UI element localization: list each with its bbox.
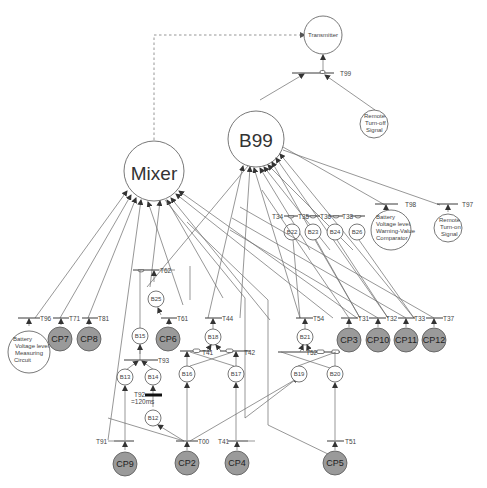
place-remote-turn-on[interactable]: Remote Turn-on Signal (434, 214, 462, 242)
t98-group[interactable]: T98 (375, 201, 417, 210)
cp4-label: CP4 (228, 458, 246, 468)
t41a-group[interactable]: T41 (180, 349, 214, 356)
t96-label: T96 (40, 315, 52, 322)
place-b19[interactable]: B19 (291, 366, 307, 382)
t33-group[interactable]: T33 (398, 315, 426, 327)
comparator-line4: Comparator (376, 235, 408, 241)
place-b21[interactable]: B21 (297, 329, 313, 345)
place-b13[interactable]: B13 (117, 369, 133, 385)
t54-group[interactable]: T54 (296, 315, 325, 322)
t61-to-b25-arc (158, 308, 161, 315)
place-b16[interactable]: B16 (179, 366, 195, 382)
t96-group[interactable]: T96 (18, 315, 52, 326)
remote-on-line1: Remote (439, 217, 461, 223)
cp2-label: CP2 (178, 458, 196, 468)
t32-group[interactable]: T32 (369, 315, 398, 327)
t91-group[interactable]: T91 (96, 438, 134, 450)
b12-label: B12 (148, 415, 159, 421)
t81-group[interactable]: T81 (82, 315, 110, 325)
t97-group[interactable]: T97 (437, 201, 474, 212)
cp6-label: CP6 (159, 334, 177, 344)
mixer-label: Mixer (131, 163, 178, 184)
place-cp12[interactable]: CP12 (422, 328, 446, 352)
place-b24[interactable]: B24 (327, 224, 343, 240)
place-b17[interactable]: B17 (228, 366, 244, 382)
place-comparator[interactable]: Battery Voltage level Warning-Value Comp… (371, 210, 416, 250)
t54-label: T54 (313, 315, 325, 322)
place-transmitter[interactable]: Transmitter (304, 16, 342, 54)
t93-group[interactable]: T93 (124, 357, 170, 364)
b16-label: B16 (182, 371, 193, 377)
t38-group[interactable]: T38 (342, 213, 365, 220)
place-remote-turn-off[interactable]: Remote Turn-off Signal (360, 110, 388, 138)
t41-label: T41 (218, 438, 230, 445)
place-b18[interactable]: B18 (205, 329, 221, 345)
cp8-label: CP8 (80, 334, 98, 344)
t31-label: T31 (358, 315, 370, 322)
place-cp6[interactable]: CP6 (156, 327, 180, 351)
place-b15[interactable]: B15 (132, 328, 148, 344)
place-cp2[interactable]: CP2 (175, 451, 199, 475)
place-cp9[interactable]: CP9 (113, 452, 137, 476)
measuring-line3: Measuring (15, 350, 43, 356)
place-b14[interactable]: B14 (145, 369, 161, 385)
t92-group[interactable]: T92 =120ms (131, 391, 162, 405)
comparator-line2: Voltage level (376, 221, 410, 227)
remote-on-line3: Signal (441, 231, 458, 237)
b18-label: B18 (208, 334, 219, 340)
t00-to-b12-arc (158, 425, 184, 441)
place-cp5[interactable]: CP5 (323, 451, 347, 475)
t44-group[interactable]: T44 (205, 315, 234, 322)
place-cp8[interactable]: CP8 (77, 327, 101, 351)
place-cp4[interactable]: CP4 (225, 451, 249, 475)
t32-label: T32 (386, 315, 398, 322)
t52-label: T52 (306, 349, 318, 356)
t42-group[interactable]: T42 (220, 349, 256, 356)
t93-label: T93 (158, 357, 170, 364)
b23-label: B23 (308, 229, 319, 235)
place-cp7[interactable]: CP7 (48, 327, 72, 351)
place-b25[interactable]: B25 (148, 291, 164, 307)
petri-net-diagram: Transmitter T99 Remote Turn-off Signal B… (0, 0, 487, 488)
b20-label: B20 (330, 371, 341, 377)
b15-label: B15 (135, 333, 146, 339)
t92-delay-label: =120ms (131, 398, 155, 405)
b22-b26-out-arcs (293, 240, 414, 318)
t34-group[interactable]: T34 (272, 213, 298, 220)
t38-label: T38 (342, 213, 354, 220)
remote-off-line3: Signal (366, 127, 383, 133)
place-b26[interactable]: B26 (349, 224, 365, 240)
cp11-label: CP11 (395, 335, 417, 345)
inhibitor-arc-icon (320, 71, 325, 74)
cp9-label: CP9 (116, 459, 134, 469)
t99-label: T99 (340, 70, 352, 77)
place-b20[interactable]: B20 (327, 366, 343, 382)
t33-label: T33 (414, 315, 426, 322)
t42-label: T42 (244, 349, 256, 356)
b17-label: B17 (231, 371, 242, 377)
cp10-label: CP10 (367, 335, 390, 345)
t36-group[interactable]: T36 (320, 213, 343, 220)
measuring-line2: Voltage level (15, 343, 49, 349)
cp7-label: CP7 (51, 334, 69, 344)
t51-label: T51 (345, 438, 357, 445)
t41-group[interactable]: T41 (218, 438, 248, 450)
b19-b20-cross-arcs (281, 345, 336, 368)
place-mixer[interactable]: Mixer (124, 141, 184, 201)
t51-group[interactable]: T51 (327, 438, 357, 450)
place-measuring[interactable]: Battery Voltage level Measuring Circuit (8, 331, 50, 373)
comparator-line3: Warning-Value (376, 228, 416, 234)
t81-label: T81 (98, 315, 110, 322)
place-b23[interactable]: B23 (305, 224, 321, 240)
place-b99[interactable]: B99 (228, 111, 284, 167)
b24-label: B24 (330, 229, 341, 235)
t71-group[interactable]: T71 (53, 315, 81, 325)
place-cp10[interactable]: CP10 (366, 328, 390, 352)
place-cp3[interactable]: CP3 (337, 328, 361, 352)
t61-group[interactable]: T61 (161, 315, 189, 325)
place-b12[interactable]: B12 (145, 410, 161, 426)
t37-group[interactable]: T37 (426, 315, 455, 327)
t97-label: T97 (462, 201, 474, 208)
place-cp11[interactable]: CP11 (394, 328, 418, 352)
t71-label: T71 (69, 315, 81, 322)
